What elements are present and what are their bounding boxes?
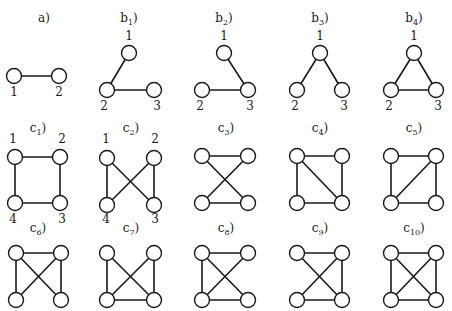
graph-vertex xyxy=(147,293,162,308)
graph-vertex xyxy=(53,150,68,165)
graph-title: c1) xyxy=(30,121,47,137)
graph-vertex xyxy=(429,293,444,308)
graph-vertex xyxy=(53,196,68,211)
vertex-label: 1 xyxy=(102,132,110,146)
graph-vertex xyxy=(8,196,23,211)
graph-c1: c1)1234 xyxy=(8,121,68,226)
graph-title: c3) xyxy=(218,121,235,137)
vertex-label: 1 xyxy=(220,29,228,43)
graph-vertex xyxy=(384,149,399,164)
graph-title: c4) xyxy=(312,121,329,137)
graph-vertex xyxy=(335,196,350,211)
graph-vertex xyxy=(52,69,67,84)
graph-vertex xyxy=(9,246,24,261)
graph-vertex xyxy=(100,151,115,166)
graph-vertex xyxy=(195,83,210,98)
vertex-label: 4 xyxy=(102,212,110,226)
graph-title: b1) xyxy=(120,11,137,27)
graph-vertex xyxy=(100,198,115,213)
vertex-label: 1 xyxy=(410,29,418,43)
graph-vertex xyxy=(54,293,69,308)
graph-vertex xyxy=(384,196,399,211)
graph-vertex xyxy=(147,83,162,98)
graph-vertex xyxy=(290,149,305,164)
graph-vertex xyxy=(335,83,350,98)
vertex-label: 1 xyxy=(10,85,18,99)
vertex-label: 2 xyxy=(291,99,299,113)
graph-b3: b3)123 xyxy=(290,11,350,113)
graph-vertex xyxy=(290,293,305,308)
graph-vertex xyxy=(241,293,256,308)
graph-title: c2) xyxy=(123,121,140,137)
graph-a: a)12 xyxy=(7,11,67,99)
vertex-label: 3 xyxy=(340,99,348,113)
graph-title: a) xyxy=(38,11,50,25)
graph-vertex xyxy=(384,293,399,308)
graph-c3: c3) xyxy=(195,121,256,211)
graph-vertex xyxy=(147,151,162,166)
graph-title: c7) xyxy=(123,221,140,237)
graph-c10: c10) xyxy=(384,221,444,308)
graph-c2: c2)1234 xyxy=(100,121,162,226)
graph-edge xyxy=(391,156,436,203)
graph-vertex xyxy=(241,149,256,164)
graph-vertex xyxy=(54,246,69,261)
graph-vertex xyxy=(241,246,256,261)
vertex-label: 2 xyxy=(58,132,66,146)
graph-b1: b1)123 xyxy=(100,11,162,113)
graph-vertex xyxy=(313,46,328,61)
vertex-label: 3 xyxy=(246,99,254,113)
graph-vertex xyxy=(384,246,399,261)
graph-vertex xyxy=(241,196,256,211)
graph-title: b3) xyxy=(311,11,328,27)
graph-title: b4) xyxy=(405,11,422,27)
graph-vertex xyxy=(195,196,210,211)
graph-vertex xyxy=(217,46,232,61)
graph-vertex xyxy=(100,293,115,308)
graph-vertex xyxy=(8,150,23,165)
graph-vertex xyxy=(429,246,444,261)
graph-c6: c6) xyxy=(9,221,69,308)
vertex-label: 1 xyxy=(125,29,133,43)
graph-vertex xyxy=(335,149,350,164)
graph-c4: c4) xyxy=(290,121,350,211)
graph-vertex xyxy=(241,83,256,98)
graph-vertex xyxy=(7,69,22,84)
graph-title: c9) xyxy=(312,221,329,237)
graph-vertex xyxy=(429,149,444,164)
graph-vertex xyxy=(290,196,305,211)
graph-title: c6) xyxy=(30,221,47,237)
vertex-label: 3 xyxy=(151,212,159,226)
vertex-label: 2 xyxy=(385,99,393,113)
graph-vertex xyxy=(122,46,137,61)
graph-vertex xyxy=(384,83,399,98)
graph-vertex xyxy=(290,246,305,261)
graph-vertex xyxy=(147,198,162,213)
vertex-label: 3 xyxy=(434,99,442,113)
graph-c8: c8) xyxy=(195,221,256,308)
graph-c5: c5) xyxy=(384,121,444,211)
graph-vertex xyxy=(290,83,305,98)
graph-vertex xyxy=(100,246,115,261)
vertex-label: 1 xyxy=(9,132,17,146)
vertex-label: 3 xyxy=(58,212,66,226)
graph-b4: b4)123 xyxy=(384,11,444,113)
graph-vertex xyxy=(147,246,162,261)
graph-enumeration-figure: a)12b1)123b2)123b3)123b4)123c1)1234c2)12… xyxy=(0,0,452,311)
graph-c9: c9) xyxy=(290,221,350,308)
graph-vertex xyxy=(429,83,444,98)
vertex-label: 2 xyxy=(55,85,63,99)
graph-title: b2) xyxy=(215,11,232,27)
vertex-label: 4 xyxy=(9,212,17,226)
graph-title: c8) xyxy=(218,221,235,237)
graph-c7: c7) xyxy=(100,221,162,308)
graph-vertex xyxy=(195,149,210,164)
graph-title: c5) xyxy=(406,121,423,137)
graph-vertex xyxy=(195,293,210,308)
graph-vertex xyxy=(407,46,422,61)
graph-b2: b2)123 xyxy=(195,11,256,113)
vertex-label: 3 xyxy=(153,99,161,113)
graph-vertex xyxy=(335,293,350,308)
vertex-label: 2 xyxy=(151,132,159,146)
graph-vertex xyxy=(335,246,350,261)
